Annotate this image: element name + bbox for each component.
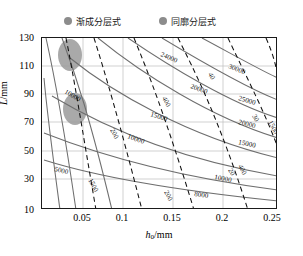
y-tick-50: 50 xyxy=(4,145,34,156)
contour-label-40: 40 xyxy=(206,71,217,81)
contour-label-1500-low: 1500 xyxy=(86,177,100,194)
dashed-contour-labels: 1500 1500 200 200 400 400 40 30 20 xyxy=(86,71,276,202)
legend-label-0: 渐成分层式 xyxy=(76,15,121,28)
y-tick-70: 70 xyxy=(4,116,34,127)
x-axis-title-unit: /mm xyxy=(154,229,172,240)
y-axis-title: L/mm xyxy=(0,81,9,105)
x-tick-0.1: 0.1 xyxy=(102,212,142,223)
contour-label-1500: 1500 xyxy=(266,119,276,136)
contour-label-200: 200 xyxy=(162,189,174,202)
dashed-contour-20 xyxy=(266,38,276,84)
contour-label-400: 400 xyxy=(236,163,248,176)
contour-label-30000: 30000 xyxy=(227,62,247,76)
legend-marker-circle-icon xyxy=(159,17,167,25)
legend-item-1: 同廓分层式 xyxy=(159,15,216,28)
plot-area: 5000 8000 10000 10000 10000 15000 15000 … xyxy=(41,37,277,209)
chart-legend: 渐成分层式 同廓分层式 xyxy=(64,12,294,30)
highlight-region-upper xyxy=(58,39,82,71)
x-tick-0.15: 0.15 xyxy=(152,212,192,223)
contour-label-15000: 15000 xyxy=(149,110,169,123)
contour-canvas: 5000 8000 10000 10000 10000 15000 15000 … xyxy=(42,38,276,208)
solid-contour-labels: 5000 8000 10000 10000 10000 15000 15000 … xyxy=(54,50,257,200)
y-tick-130: 130 xyxy=(4,32,34,43)
legend-marker-circle-icon xyxy=(64,17,72,25)
x-tick-0.25: 0.25 xyxy=(252,212,292,223)
legend-label-1: 同廓分层式 xyxy=(171,15,216,28)
dashed-contour-400-left xyxy=(94,38,142,208)
y-tick-30: 30 xyxy=(4,173,34,184)
contour-label-8000: 8000 xyxy=(194,190,209,200)
x-tick-0.05: 0.05 xyxy=(62,212,102,223)
y-axis-title-unit: /mm xyxy=(0,81,9,99)
contour-label-10000: 10000 xyxy=(126,132,146,146)
y-tick-110: 110 xyxy=(4,60,34,71)
dashed-contour-30 xyxy=(228,38,276,148)
legend-item-0: 渐成分层式 xyxy=(64,15,121,28)
x-axis-title: h0/mm xyxy=(146,229,173,241)
y-tick-10: 10 xyxy=(4,204,34,215)
chart-root: 渐成分层式 同廓分层式 130 110 90 70 50 30 10 L/mm … xyxy=(0,0,303,256)
contour-label-200-upper: 200 xyxy=(108,127,120,140)
contour-label-25000: 25000 xyxy=(237,94,257,107)
x-tick-0.2: 0.2 xyxy=(202,212,242,223)
contour-label-400-upper: 400 xyxy=(160,95,172,108)
y-axis-title-symbol: L xyxy=(0,99,9,105)
plot-inner: 5000 8000 10000 10000 10000 15000 15000 … xyxy=(42,38,276,208)
contour-label-24000: 24000 xyxy=(159,50,179,64)
